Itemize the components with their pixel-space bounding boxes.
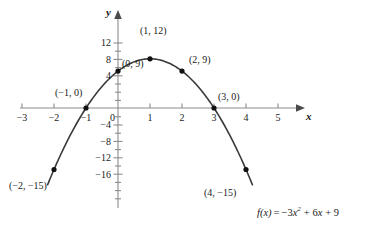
data-point-vertex <box>147 56 152 61</box>
x-tick-label-5: 5 <box>270 113 286 123</box>
equation-term3: + 9 <box>325 207 339 218</box>
x-tick-label-minus2: −2 <box>46 113 62 123</box>
x-axis-ticks <box>22 104 278 109</box>
x-axis-label: x <box>306 111 312 122</box>
point-label-right-root: (3, 0) <box>218 92 240 102</box>
y-tick-label-minus12: −12 <box>86 153 111 163</box>
equation-term2: + 6 <box>304 207 318 218</box>
x-tick-label-3: 3 <box>206 113 222 123</box>
y-tick-label-minus8: −8 <box>91 137 111 147</box>
data-point-x-intercept-left <box>83 105 88 110</box>
equation-equals: = <box>274 207 280 218</box>
x-tick-label-1: 1 <box>142 113 158 123</box>
y-tick-label-12: 12 <box>93 38 111 48</box>
parabola-graph-figure: y x −3 −2 −1 0 1 2 3 4 5 12 8 4 −4 −8 −1… <box>0 0 374 232</box>
point-label-vertex: (1, 12) <box>140 26 167 36</box>
equation-term2-var: x <box>318 207 323 218</box>
y-tick-label-minus16: −16 <box>86 170 111 180</box>
x-axis-arrowhead <box>296 104 305 112</box>
equation-fx: f(x) <box>257 207 272 218</box>
data-point-point-neg2 <box>51 167 56 172</box>
point-label-left-low: (−2, −15) <box>9 181 47 191</box>
data-point-point-2-9 <box>179 69 184 74</box>
data-point-y-intercept <box>115 69 120 74</box>
x-tick-label-4: 4 <box>238 113 254 123</box>
function-equation-label: f(x)=−3x2+ 6x+ 9 <box>257 206 339 218</box>
data-point-x-intercept-right <box>211 105 216 110</box>
y-axis-label: y <box>106 7 111 18</box>
y-tick-label-4: 4 <box>93 71 111 81</box>
x-tick-label-2: 2 <box>174 113 190 123</box>
x-tick-label-minus3: −3 <box>14 113 30 123</box>
point-label-right-low: (4, −15) <box>204 188 236 198</box>
y-tick-label-minus4: −4 <box>91 120 111 130</box>
y-axis-arrowhead <box>114 10 122 19</box>
equation-term1-exponent: 2 <box>297 205 301 213</box>
data-point-point-4 <box>243 167 248 172</box>
point-label-2-9: (2, 9) <box>189 55 211 65</box>
y-tick-label-8: 8 <box>93 55 111 65</box>
point-label-left-root: (−1, 0) <box>55 88 82 98</box>
point-label-y-intercept: (0, 9) <box>122 59 144 69</box>
